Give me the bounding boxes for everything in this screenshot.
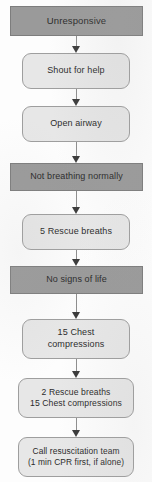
arrow-down-icon — [72, 259, 80, 266]
arrow-down-icon — [72, 207, 80, 214]
flowchart-node-label: Shout for help — [44, 65, 107, 77]
flowchart-node-label: Not breathing normally — [27, 171, 126, 183]
flowchart-node-label: 5 Rescue breaths — [37, 226, 115, 238]
flowchart-node-shout-for-help: Shout for help — [22, 53, 130, 89]
arrow-line-icon — [76, 294, 77, 313]
resuscitation-flowchart: UnresponsiveShout for helpOpen airwayNot… — [0, 0, 152, 482]
arrow-line-icon — [76, 142, 77, 157]
flowchart-node-no-signs-of-life: No signs of life — [10, 266, 143, 294]
flowchart-node-not-breathing-normally: Not breathing normally — [10, 163, 143, 191]
flowchart-node-label: Open airway — [47, 118, 105, 130]
arrow-down-icon — [72, 46, 80, 53]
arrow-down-icon — [72, 371, 80, 378]
flowchart-node-call-resuscitation-team: Call resuscitation team (1 min CPR first… — [18, 437, 134, 477]
arrow-down-icon — [72, 99, 80, 106]
arrow-down-icon — [72, 156, 80, 163]
arrow-down-icon — [72, 312, 80, 319]
flowchart-node-label: Unresponsive — [44, 15, 109, 27]
arrow-down-icon — [72, 430, 80, 437]
flowchart-node-open-airway: Open airway — [22, 106, 130, 142]
flowchart-node-five-rescue-breaths: 5 Rescue breaths — [22, 214, 130, 250]
flowchart-node-label: No signs of life — [43, 274, 110, 286]
flowchart-node-2-breaths-15-compressions: 2 Rescue breaths 15 Chest compressions — [18, 378, 134, 418]
flowchart-node-15-chest-compressions: 15 Chest compressions — [22, 319, 130, 359]
flowchart-node-label: Call resuscitation team (1 min CPR first… — [25, 446, 127, 468]
flowchart-node-unresponsive: Unresponsive — [10, 6, 143, 36]
flowchart-node-label: 15 Chest compressions — [45, 327, 108, 350]
flowchart-node-label: 2 Rescue breaths 15 Chest compressions — [27, 387, 125, 409]
arrow-line-icon — [76, 191, 77, 208]
